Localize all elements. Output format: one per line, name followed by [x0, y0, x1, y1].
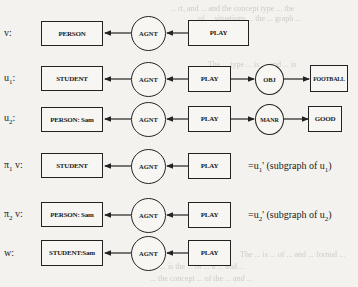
concept-box: PERSON: Sam: [41, 202, 103, 227]
label-subscript: 2: [9, 214, 13, 222]
row-label-pi2-v: π2 v:: [4, 208, 23, 219]
relation-circle-agnt: AGNT: [131, 16, 166, 51]
relation-circle-agnt: AGNT: [131, 236, 166, 271]
act-box: PLAY: [188, 106, 231, 132]
label-suffix: v:: [13, 208, 23, 219]
note-text: ' (subgraph of u: [262, 209, 325, 220]
concept-box: STUDENT: [41, 66, 103, 91]
note-subscript: 2: [259, 215, 263, 223]
relation-circle-obj: OBJ: [255, 64, 284, 95]
relation-circle-manr: MANR: [255, 104, 284, 135]
row-label-w: w:: [4, 247, 14, 258]
label-subscript: 1: [9, 78, 13, 86]
note-text: ): [328, 209, 331, 220]
relation-circle-agnt: AGNT: [131, 149, 166, 184]
label-suffix: :: [9, 27, 12, 38]
label-suffix: v:: [13, 159, 23, 170]
row-label-v: v:: [4, 27, 12, 38]
relation-circle-agnt: AGNT: [131, 62, 166, 97]
row-label-u1: u1:: [4, 72, 15, 83]
note-text: =u: [248, 209, 259, 220]
row-label-u2: u2:: [4, 112, 15, 123]
concept-box: PERSON: Sam: [41, 107, 103, 132]
label-subscript: 1: [9, 165, 13, 173]
note-subscript: 1: [259, 166, 263, 174]
subgraph-note-u1: =u1' (subgraph of u1): [248, 160, 332, 171]
act-box: PLAY: [188, 66, 231, 92]
concept-box-good: GOOD: [308, 106, 342, 132]
act-box: PLAY: [188, 153, 231, 179]
concept-box: STUDENT: [41, 153, 103, 178]
label-subscript: 2: [9, 118, 13, 126]
concept-box-football: FOOTBALL: [310, 65, 348, 92]
act-box: PLAY: [188, 240, 231, 266]
act-box: PLAY: [188, 202, 231, 228]
concept-box: STUDENT:Sam: [41, 240, 103, 266]
relation-circle-agnt: AGNT: [131, 198, 166, 233]
row-label-pi1-v: π1 v:: [4, 159, 23, 170]
concept-box: PERSON: [41, 21, 103, 46]
note-subscript: 2: [325, 215, 329, 223]
note-text: ' (subgraph of u: [262, 160, 325, 171]
note-text: =u: [248, 160, 259, 171]
subgraph-note-u2: =u2' (subgraph of u2): [248, 209, 332, 220]
relation-circle-agnt: AGNT: [131, 102, 166, 137]
note-text: ): [328, 160, 331, 171]
label-suffix: :: [11, 247, 14, 258]
act-box: PLAY: [188, 20, 249, 46]
note-subscript: 1: [325, 166, 329, 174]
